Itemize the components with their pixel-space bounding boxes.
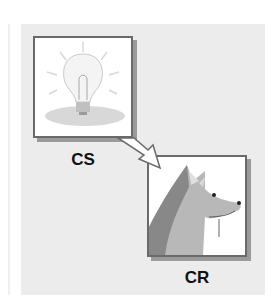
arrow-icon xyxy=(0,0,274,307)
